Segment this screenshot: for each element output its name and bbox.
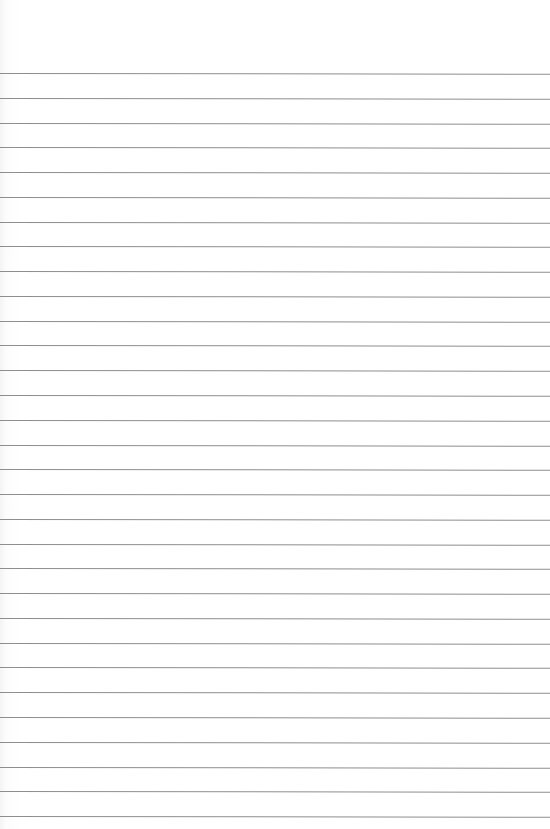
ruled-line	[0, 395, 550, 397]
ruled-line	[0, 445, 550, 447]
ruled-paper	[0, 0, 550, 829]
ruled-line	[0, 643, 550, 645]
ruled-line	[0, 246, 550, 248]
ruled-line	[0, 296, 550, 298]
ruled-line	[0, 494, 550, 496]
ruled-line	[0, 742, 550, 744]
ruled-line	[0, 568, 550, 570]
ruled-line	[0, 469, 550, 471]
ruled-line	[0, 717, 550, 719]
ruled-line	[0, 147, 550, 149]
ruled-line	[0, 593, 550, 595]
ruled-line	[0, 123, 550, 125]
ruled-line	[0, 321, 550, 323]
ruled-line	[0, 519, 550, 521]
ruled-line	[0, 197, 550, 199]
ruled-line	[0, 271, 550, 273]
ruled-line	[0, 98, 550, 100]
ruled-line	[0, 791, 550, 793]
ruled-line	[0, 370, 550, 372]
ruled-line	[0, 692, 550, 694]
ruled-line	[0, 172, 550, 174]
ruled-line	[0, 420, 550, 422]
ruled-line	[0, 544, 550, 546]
ruled-line	[0, 816, 550, 818]
ruled-line	[0, 222, 550, 224]
ruled-line	[0, 345, 550, 347]
ruled-line	[0, 618, 550, 620]
ruled-line	[0, 73, 550, 75]
ruled-line	[0, 767, 550, 769]
ruled-line	[0, 667, 550, 669]
